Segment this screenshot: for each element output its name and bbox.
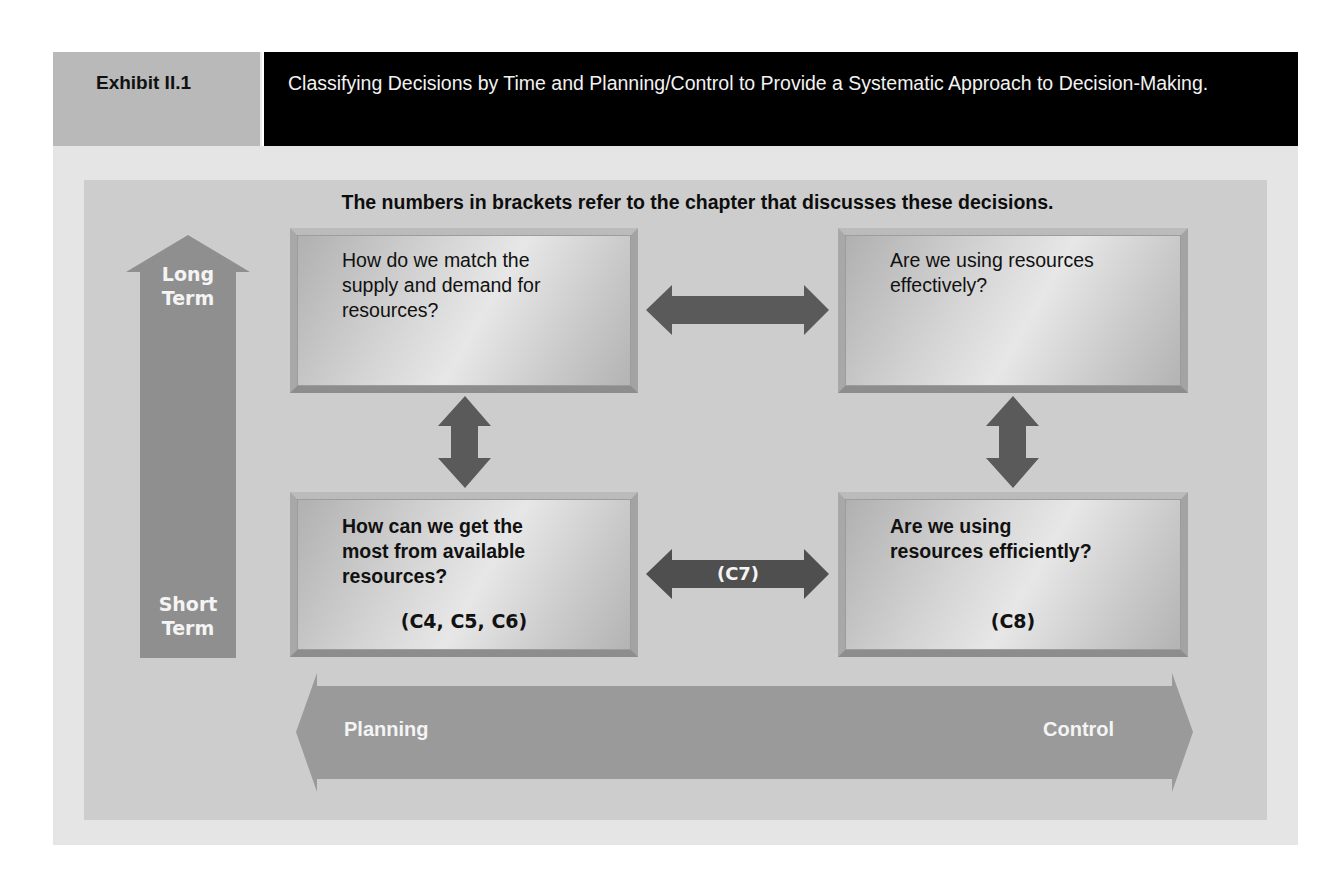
planning-label: Planning: [344, 718, 428, 741]
exhibit-title-cell: Classifying Decisions by Time and Planni…: [264, 52, 1298, 146]
question-line: effectively?: [890, 273, 1094, 298]
box-bottom-right-question: Are we using resources efficiently?: [890, 514, 1092, 564]
exhibit-title: Classifying Decisions by Time and Planni…: [288, 71, 1248, 96]
box-bottom-right: Are we using resources efficiently? (C8): [838, 492, 1188, 657]
control-label: Control: [1043, 718, 1114, 741]
question-line: resources?: [342, 564, 525, 589]
box-top-left-question: How do we match the supply and demand fo…: [342, 248, 540, 323]
right-vertical-connector-arrow-icon: [986, 396, 1040, 489]
question-line: resources efficiently?: [890, 539, 1092, 564]
short-term-label-line1: Short: [140, 592, 236, 616]
question-line: resources?: [342, 298, 540, 323]
question-line: How can we get the: [342, 514, 525, 539]
long-term-label-line1: Long: [140, 262, 236, 286]
question-line: Are we using: [890, 514, 1092, 539]
short-term-label: Short Term: [140, 592, 236, 640]
long-term-label-line2: Term: [140, 286, 236, 310]
box-top-left: How do we match the supply and demand fo…: [290, 228, 638, 393]
box-bottom-left: How can we get the most from available r…: [290, 492, 638, 657]
box-bottom-left-question: How can we get the most from available r…: [342, 514, 525, 589]
left-vertical-connector-arrow-icon: [438, 396, 492, 489]
question-line: most from available: [342, 539, 525, 564]
question-line: supply and demand for: [342, 273, 540, 298]
top-horizontal-connector-arrow-icon: [646, 285, 830, 336]
box-bottom-left-reference: (C4, C5, C6): [297, 610, 631, 632]
c7-connector-label: (C7): [646, 563, 830, 584]
short-term-label-line2: Term: [140, 616, 236, 640]
long-term-label: Long Term: [140, 262, 236, 310]
box-top-right-question: Are we using resources effectively?: [890, 248, 1094, 298]
question-line: How do we match the: [342, 248, 540, 273]
question-line: Are we using resources: [890, 248, 1094, 273]
exhibit-label: Exhibit II.1: [96, 72, 191, 94]
box-top-right: Are we using resources effectively?: [838, 228, 1188, 393]
diagram-note: The numbers in brackets refer to the cha…: [84, 191, 1267, 214]
exhibit-label-cell: Exhibit II.1: [53, 52, 262, 146]
box-bottom-right-reference: (C8): [845, 610, 1181, 632]
